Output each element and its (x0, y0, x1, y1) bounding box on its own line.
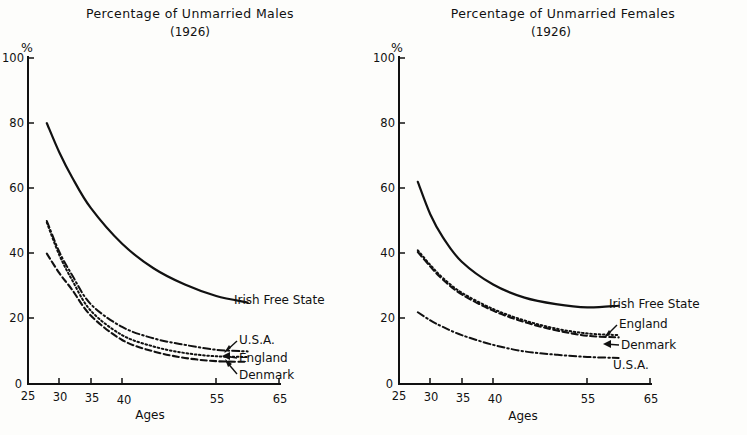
males-legend-label-england: England (239, 351, 288, 365)
males-xtick-30: 30 (53, 390, 68, 404)
males-ytick-20: 20 (9, 311, 24, 325)
males-ytick-80: 80 (9, 116, 24, 130)
chart-panel-males: Percentage of Unmarried Males (1926) % 1… (0, 0, 374, 435)
males-series-group (47, 123, 248, 362)
chart-panel-females: Percentage of Unmarried Females (1926) %… (373, 0, 747, 435)
males-xtick-65: 65 (273, 392, 288, 406)
males-chart-svg: Percentage of Unmarried Males (1926) % 1… (0, 0, 374, 435)
females-xtick-30: 30 (424, 390, 439, 404)
males-xtick-25: 25 (21, 389, 36, 403)
males-chart-title: Percentage of Unmarried Males (86, 6, 294, 21)
males-xtick-55: 55 (210, 392, 225, 406)
females-legend-label-usa: U.S.A. (613, 358, 649, 372)
females-curve-england (418, 250, 619, 335)
males-y-ticks: 100 80 60 40 20 0 (2, 51, 34, 391)
females-xtick-35: 35 (456, 391, 471, 405)
females-ytick-100: 100 (373, 51, 395, 65)
males-arrow-usa (224, 345, 231, 353)
females-x-ticks: 25 30 35 40 55 65 (392, 378, 659, 406)
males-ytick-100: 100 (2, 51, 24, 65)
females-legend-label-denmark: Denmark (621, 338, 676, 352)
males-xtick-40: 40 (117, 393, 132, 407)
females-chart-svg: Percentage of Unmarried Females (1926) %… (373, 0, 747, 435)
females-ytick-40: 40 (380, 246, 395, 260)
males-legend: Irish Free State U.S.A. England Denmark (222, 293, 325, 382)
females-xtick-55: 55 (581, 392, 596, 406)
females-xtick-25: 25 (392, 389, 407, 403)
males-curve-usa (47, 221, 248, 351)
males-curve-irish-free-state (47, 123, 248, 302)
females-x-axis-name: Ages (508, 409, 537, 423)
females-curve-irish-free-state (418, 182, 619, 308)
females-ytick-80: 80 (380, 116, 395, 130)
females-y-ticks: 100 80 60 40 20 0 (373, 51, 405, 391)
males-xtick-35: 35 (85, 391, 100, 405)
females-ytick-20: 20 (380, 311, 395, 325)
males-x-ticks: 25 30 35 40 55 65 (21, 378, 288, 407)
females-series-group (418, 182, 619, 358)
males-ytick-60: 60 (9, 181, 24, 195)
males-ytick-40: 40 (9, 246, 24, 260)
females-legend-label-irish-free-state: Irish Free State (609, 297, 700, 311)
males-legend-label-irish-free-state: Irish Free State (234, 293, 325, 307)
males-chart-subtitle: (1926) (170, 25, 210, 39)
females-legend-label-england: England (619, 317, 668, 331)
females-xtick-40: 40 (488, 392, 503, 406)
females-xtick-65: 65 (644, 392, 659, 406)
males-legend-label-usa: U.S.A. (239, 333, 275, 347)
males-x-axis-name: Ages (135, 408, 164, 422)
females-chart-subtitle: (1926) (531, 25, 571, 39)
females-ytick-60: 60 (380, 181, 395, 195)
females-arrow-denmark (603, 340, 611, 348)
figure-page: Percentage of Unmarried Males (1926) % 1… (0, 0, 747, 435)
males-arrow-england (222, 352, 230, 360)
males-legend-label-denmark: Denmark (239, 368, 294, 382)
females-chart-title: Percentage of Unmarried Females (451, 6, 675, 21)
